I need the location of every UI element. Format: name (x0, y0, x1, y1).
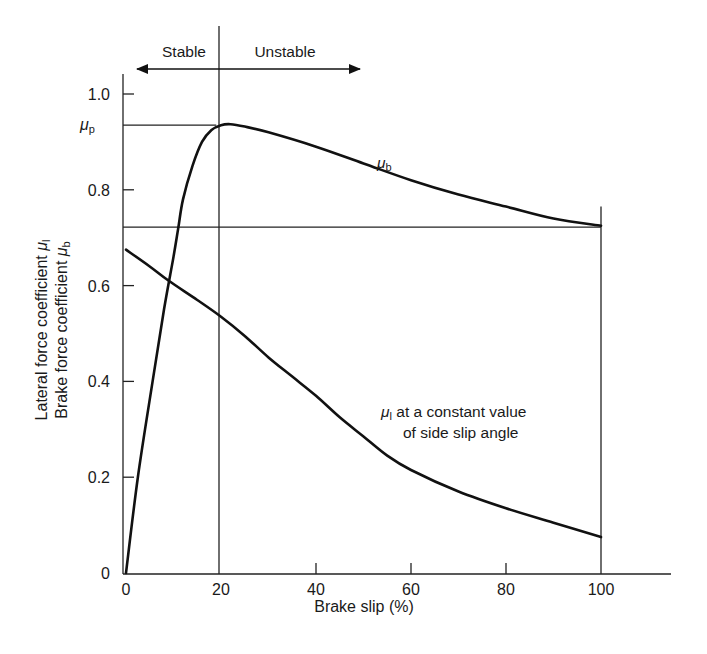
x-tick-label: 20 (212, 581, 230, 598)
y-axis-ticks: 00.20.40.60.81.0 (88, 86, 134, 582)
y-tick-label: 0.8 (88, 182, 110, 199)
y-tick-label: 0.4 (88, 373, 110, 390)
x-tick-label: 40 (307, 581, 325, 598)
brake-slip-chart: 00.20.40.60.81.0 020406080100 Stable Uns… (0, 0, 707, 654)
y-axis-label-brake: Brake force coefficient μb (53, 241, 72, 418)
mu-l-curve-label-line2: of side slip angle (403, 424, 518, 441)
x-tick-label: 60 (402, 581, 420, 598)
y-tick-label: 0.6 (88, 278, 110, 295)
y-tick-label: 0 (101, 565, 110, 582)
x-axis-label: Brake slip (%) (314, 598, 414, 615)
mu-b-curve (126, 124, 601, 573)
y-tick-label: 1.0 (88, 86, 110, 103)
x-tick-label: 80 (497, 581, 515, 598)
y-tick-label: 0.2 (88, 469, 110, 486)
unstable-label: Unstable (254, 43, 315, 60)
x-tick-label: 100 (588, 581, 615, 598)
x-axis-ticks: 020406080100 (122, 563, 615, 598)
mu-p-label: μp (79, 116, 95, 135)
y-axis-label-lateral: Lateral force coefficient μl (33, 240, 52, 421)
x-tick-label: 0 (122, 581, 131, 598)
mu-b-curve-label: μb (376, 154, 392, 173)
mu-l-curve (126, 250, 601, 537)
mu-l-curve-label: μl at a constant value (380, 403, 526, 422)
stable-label: Stable (162, 43, 206, 60)
